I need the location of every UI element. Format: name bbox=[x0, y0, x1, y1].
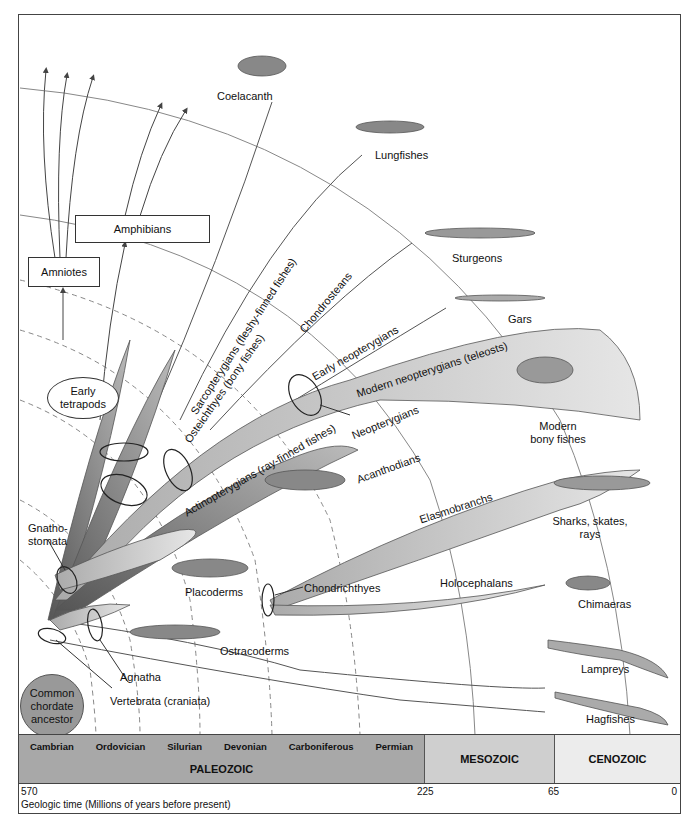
tick-570: 570 bbox=[21, 786, 38, 797]
gar-icon bbox=[455, 295, 545, 301]
label-sharks: Sharks, skates, rays bbox=[540, 515, 640, 541]
period-cambrian: Cambrian bbox=[30, 741, 74, 752]
period-carboniferous: Carboniferous bbox=[289, 741, 354, 752]
ostracoderm-icon bbox=[130, 625, 220, 639]
tick-225: 225 bbox=[417, 786, 434, 797]
label-line: Gnatho- bbox=[28, 522, 68, 535]
label-hagfishes: Hagfishes bbox=[586, 713, 635, 726]
placoderm-icon bbox=[172, 559, 248, 577]
label-line: Sharks, skates, bbox=[540, 515, 640, 528]
amniotes-box: Amniotes bbox=[28, 257, 100, 287]
label-line: bony fishes bbox=[518, 433, 598, 446]
label-line: stomata bbox=[28, 535, 68, 548]
label-gars: Gars bbox=[508, 313, 532, 326]
label-gnathostomata: Gnatho- stomata bbox=[28, 522, 68, 548]
period-permian: Permian bbox=[375, 741, 413, 752]
label-holocephalans: Holocephalans bbox=[440, 577, 513, 590]
chimaera-icon bbox=[566, 576, 610, 590]
geologic-timescale: Cambrian Ordovician Silurian Devonian Ca… bbox=[18, 734, 681, 784]
common-ancestor-node: Common chordate ancestor bbox=[20, 674, 84, 738]
phylogeny-svg bbox=[0, 0, 697, 740]
label-coelacanth: Coelacanth bbox=[217, 90, 273, 103]
label-sturgeons: Sturgeons bbox=[452, 252, 502, 265]
time-axis: 570 225 65 0 Geologic time (Millions of … bbox=[18, 784, 681, 814]
label-placoderms: Placoderms bbox=[185, 586, 243, 599]
early-tetrapods-line1: Early bbox=[70, 385, 95, 398]
lungfish-icon bbox=[356, 121, 424, 133]
period-silurian: Silurian bbox=[167, 741, 202, 752]
early-tetrapods-line2: tetrapods bbox=[60, 398, 106, 411]
label-ostracoderms: Ostracoderms bbox=[220, 645, 289, 658]
era-mesozoic: MESOZOIC bbox=[425, 735, 555, 783]
early-tetrapods-ellipse: Early tetrapods bbox=[47, 377, 119, 419]
label-vertebrata: Vertebrata (craniata) bbox=[110, 695, 210, 708]
amphibians-box: Amphibians bbox=[75, 215, 210, 243]
label-line: Modern bbox=[518, 420, 598, 433]
era-name-paleozoic: PALEOZOIC bbox=[19, 763, 424, 775]
period-list: Cambrian Ordovician Silurian Devonian Ca… bbox=[19, 741, 424, 752]
sturgeon-icon bbox=[425, 228, 535, 238]
coelacanth-icon bbox=[238, 56, 286, 76]
period-devonian: Devonian bbox=[224, 741, 267, 752]
tick-65: 65 bbox=[548, 786, 559, 797]
tick-0: 0 bbox=[671, 786, 677, 797]
label-line: rays bbox=[540, 528, 640, 541]
label-modern-bony-fishes: Modern bony fishes bbox=[518, 420, 598, 446]
acanthodian-icon bbox=[265, 470, 345, 490]
perch-icon bbox=[517, 357, 573, 383]
era-paleozoic: Cambrian Ordovician Silurian Devonian Ca… bbox=[19, 735, 425, 783]
label-chimaeras: Chimaeras bbox=[578, 598, 631, 611]
shark-icon bbox=[554, 476, 650, 490]
axis-title: Geologic time (Millions of years before … bbox=[21, 799, 231, 810]
label-chondrichthyes: Chondrichthyes bbox=[304, 582, 380, 595]
label-lungfishes: Lungfishes bbox=[375, 149, 428, 162]
period-ordovician: Ordovician bbox=[96, 741, 146, 752]
era-cenozoic: CENOZOIC bbox=[555, 735, 680, 783]
label-lampreys: Lampreys bbox=[581, 663, 629, 676]
label-agnatha: Agnatha bbox=[120, 671, 161, 684]
